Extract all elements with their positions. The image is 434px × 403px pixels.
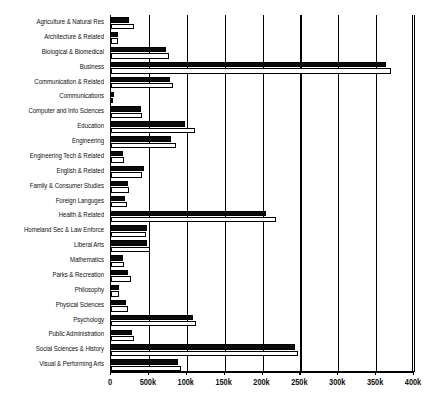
bar-black [111, 300, 126, 305]
category-label: Public Administration [0, 331, 104, 338]
bar-group [111, 89, 414, 105]
category-label: Biological & Biomedical [0, 48, 104, 55]
x-axis-tick [299, 371, 300, 375]
horizontal-bar-chart: Agriculture & Natural ResArchitecture & … [0, 0, 434, 403]
category-label: Parks & Recreation [0, 271, 104, 278]
x-axis-tick [413, 371, 414, 375]
bar-black [111, 225, 147, 230]
category-label: Health & Related [0, 212, 104, 219]
bar-group [111, 179, 414, 195]
category-label: Education [0, 123, 104, 130]
bar-black [111, 121, 185, 126]
bar-black [111, 240, 147, 245]
x-axis-tick-label: 100k [166, 377, 206, 387]
bar-white [111, 98, 113, 103]
bar-white [111, 321, 196, 326]
category-label: Mathematics [0, 256, 104, 263]
category-label: Physical Sciences [0, 301, 104, 308]
bar-white [111, 202, 127, 207]
category-label: Agriculture & Natural Res [0, 18, 104, 25]
bar-white [111, 232, 146, 237]
bar-black [111, 315, 193, 320]
bar-group [111, 75, 414, 91]
bar-black [111, 196, 125, 201]
bar-black [111, 211, 266, 216]
category-label: Architecture & Related [0, 33, 104, 40]
bar-white [111, 53, 169, 58]
bar-group [111, 15, 414, 31]
category-label: Homeland Sec & Law Enforce [0, 227, 104, 234]
bar-black [111, 181, 128, 186]
bar-black [111, 106, 141, 111]
bar-black [111, 92, 114, 97]
bar-group [111, 253, 414, 269]
x-axis-tick-label: 500k [128, 377, 168, 387]
bar-white [111, 336, 134, 341]
bar-white [111, 172, 142, 177]
x-axis-tick [224, 371, 225, 375]
category-label: Visual & Performing Arts [0, 361, 104, 368]
bar-group [111, 194, 414, 210]
category-label-column: Agriculture & Natural ResArchitecture & … [0, 15, 107, 372]
bar-group [111, 342, 414, 358]
bar-black [111, 17, 129, 22]
bar-group [111, 104, 414, 120]
bar-group [111, 164, 414, 180]
bar-black [111, 136, 171, 141]
bar-white [111, 351, 298, 356]
bar-white [111, 262, 124, 267]
category-label: Social Sciences & History [0, 346, 104, 353]
bar-white [111, 113, 142, 118]
bar-black [111, 285, 119, 290]
bar-group [111, 313, 414, 329]
category-label: Foreign Languges [0, 197, 104, 204]
category-label: Psychology [0, 316, 104, 323]
x-axis-tick-label: 150k [204, 377, 244, 387]
x-axis-tick-label: 200k [242, 377, 282, 387]
category-label: Communications [0, 93, 104, 100]
category-label: Computer and Info Sciences [0, 108, 104, 115]
bar-black [111, 62, 386, 67]
bar-white [111, 366, 181, 371]
x-axis-tick [337, 371, 338, 375]
category-label: Family & Consumer Studies [0, 182, 104, 189]
x-axis-tick [110, 371, 111, 375]
bar-black [111, 359, 178, 364]
bar-white [111, 68, 391, 73]
gridline [414, 15, 415, 372]
bar-group [111, 283, 414, 299]
bar-white [111, 83, 173, 88]
bar-group [111, 60, 414, 76]
bar-group [111, 223, 414, 239]
category-label: Engineering Tech & Related [0, 152, 104, 159]
bar-white [111, 143, 176, 148]
x-axis-tick-label: 400k [393, 377, 433, 387]
category-label: English & Related [0, 167, 104, 174]
bar-white [111, 247, 150, 252]
category-label: Communication & Related [0, 78, 104, 85]
x-axis-tick-label: 0 [90, 377, 130, 387]
bar-group [111, 134, 414, 150]
bar-white [111, 291, 119, 296]
bar-group [111, 149, 414, 165]
category-label: Liberal Arts [0, 242, 104, 249]
bar-group [111, 238, 414, 254]
bar-black [111, 151, 123, 156]
bar-white [111, 217, 276, 222]
bar-black [111, 47, 166, 52]
x-axis-tick-label: 350k [355, 377, 395, 387]
bar-white [111, 157, 124, 162]
x-axis-tick-label: 250k [279, 377, 319, 387]
bar-black [111, 166, 144, 171]
category-label: Business [0, 63, 104, 70]
bar-white [111, 187, 129, 192]
bar-group [111, 208, 414, 224]
bar-group [111, 298, 414, 314]
bar-black [111, 77, 170, 82]
bar-group [111, 30, 414, 46]
bar-black [111, 270, 128, 275]
x-axis-tick-label: 300k [317, 377, 357, 387]
bar-white [111, 24, 134, 29]
bar-white [111, 276, 131, 281]
bar-group [111, 119, 414, 135]
